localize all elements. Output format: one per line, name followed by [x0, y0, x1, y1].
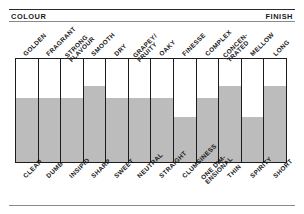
chart-column-fill	[84, 86, 106, 162]
chart-column[interactable]	[106, 59, 129, 162]
label-line-1: SMOOTH	[90, 31, 116, 57]
label-line-1: FINESSE	[181, 31, 207, 57]
chart-column-fill	[106, 98, 128, 162]
chart-column-fill	[242, 117, 264, 162]
bottom-divider-rule	[9, 205, 295, 206]
top-divider-rule	[9, 9, 295, 10]
chart-column-fill	[151, 98, 173, 162]
header-underline-rule	[9, 21, 295, 22]
chart-column[interactable]	[219, 59, 242, 162]
chart-column-fill	[16, 98, 38, 162]
chart-column[interactable]	[84, 59, 107, 162]
label-line-1: DRY	[113, 42, 128, 57]
top-axis-label: DRY	[113, 43, 128, 58]
chart-column[interactable]	[264, 59, 286, 162]
top-axis-label: SMOOTH	[91, 32, 117, 58]
chart-column[interactable]	[129, 59, 152, 162]
chart-column[interactable]	[16, 59, 39, 162]
tasting-profile-sheet: COLOUR FINISH GOLDENFRAGRANTSTRONGFLAVOU…	[0, 0, 304, 214]
top-axis-label: FINESSE	[181, 32, 207, 58]
bottom-axis-label: THIN	[227, 163, 243, 179]
chart-column-fill	[264, 86, 286, 162]
chart-column[interactable]	[61, 59, 84, 162]
chart-column-fill	[61, 98, 83, 162]
label-line-1: MELLOW	[249, 31, 276, 58]
header-left-colour: COLOUR	[11, 12, 46, 21]
bottom-axis-label: DUMB	[45, 160, 64, 179]
chart-column[interactable]	[39, 59, 62, 162]
header-right-finish: FINISH	[265, 12, 293, 21]
chart-column-fill	[129, 98, 151, 162]
chart-column[interactable]	[242, 59, 265, 162]
label-line-1: GOLDEN	[22, 31, 48, 57]
chart-column[interactable]	[174, 59, 197, 162]
profile-bar-chart	[15, 58, 287, 163]
chart-column-fill	[39, 98, 61, 162]
top-axis-label: LONG	[272, 39, 291, 58]
chart-column-fill	[219, 86, 241, 162]
top-axis-label: GOLDEN	[23, 32, 48, 57]
chart-column[interactable]	[151, 59, 174, 162]
top-axis-label: MELLOW	[249, 31, 275, 57]
label-line-1: LONG	[271, 38, 290, 57]
